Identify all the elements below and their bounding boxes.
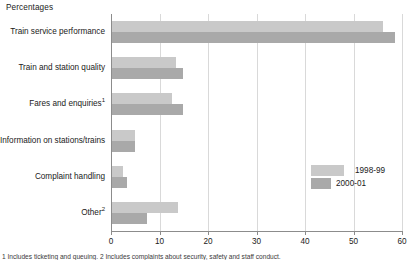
gridline-30 [257, 14, 258, 231]
tick-mark-0 [111, 232, 112, 235]
category-label-3: Information on stations/trains [0, 136, 105, 146]
tick-label-50: 50 [349, 237, 358, 247]
tick-mark-60 [402, 232, 403, 235]
tick-label-10: 10 [155, 237, 164, 247]
tick-mark-40 [305, 232, 306, 235]
legend-swatch-1998-99 [311, 165, 344, 176]
bar-0-1 [111, 57, 176, 68]
gridline-60 [402, 14, 403, 231]
legend-label-1998-99: 1998-99 [355, 165, 385, 176]
plot-area [111, 14, 402, 231]
bar-1-2 [111, 104, 183, 115]
bar-0-3 [111, 130, 135, 141]
tick-mark-10 [160, 232, 161, 235]
bar-0-4 [111, 166, 123, 177]
tick-label-60: 60 [397, 237, 406, 247]
gridline-10 [160, 14, 161, 231]
category-label-5: Other2 [0, 208, 105, 218]
bar-1-5 [111, 213, 147, 224]
bar-chart: Percentages 0102030405060 Train service … [0, 0, 414, 260]
legend-swatch-2000-01 [311, 178, 331, 189]
tick-mark-30 [257, 232, 258, 235]
category-label-2: Fares and enquiries1 [0, 99, 105, 109]
tick-label-20: 20 [203, 237, 212, 247]
chart-footnote: 1 Includes ticketing and queuing. 2 Incl… [2, 253, 281, 260]
bar-1-0 [111, 32, 395, 43]
category-label-4: Complaint handling [0, 172, 105, 182]
tick-label-0: 0 [109, 237, 114, 247]
bar-0-0 [111, 21, 383, 32]
tick-mark-20 [208, 232, 209, 235]
tick-mark-50 [354, 232, 355, 235]
bar-1-4 [111, 177, 127, 188]
gridline-20 [208, 14, 209, 231]
tick-label-30: 30 [252, 237, 261, 247]
legend-label-2000-01: 2000-01 [336, 178, 366, 189]
bar-0-2 [111, 93, 172, 104]
category-label-1: Train and station quality [0, 63, 105, 73]
category-label-0: Train service performance [0, 27, 105, 37]
tick-label-40: 40 [300, 237, 309, 247]
y-axis-line [111, 14, 112, 232]
gridline-50 [354, 14, 355, 231]
bar-1-3 [111, 141, 135, 152]
gridline-40 [305, 14, 306, 231]
chart-title: Percentages [6, 3, 53, 13]
bar-1-1 [111, 68, 183, 79]
bar-0-5 [111, 202, 178, 213]
